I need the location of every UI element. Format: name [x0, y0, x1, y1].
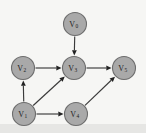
graph-node-v1[interactable]: V1 — [13, 103, 36, 126]
node-label-subscript: 0 — [76, 23, 79, 29]
directed-graph-figure: V0V2V3V5V1V4 — [0, 0, 146, 133]
node-label-subscript: 3 — [75, 67, 78, 73]
graph-node-v3[interactable]: V3 — [63, 57, 86, 80]
graph-node-v5[interactable]: V5 — [113, 57, 136, 80]
graph-node-v4[interactable]: V4 — [65, 103, 88, 126]
graph-node-v0[interactable]: V0 — [64, 13, 87, 36]
graph-node-v2[interactable]: V2 — [12, 57, 35, 80]
graph-canvas: V0V2V3V5V1V4 — [0, 0, 146, 133]
node-label-subscript: 4 — [77, 113, 80, 119]
node-label-subscript: 1 — [25, 113, 28, 119]
node-label-subscript: 2 — [24, 67, 27, 73]
node-label-subscript: 5 — [125, 67, 128, 73]
